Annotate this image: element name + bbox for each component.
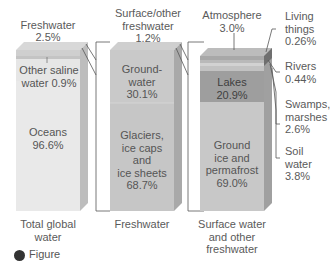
other-saline-label: Other saline water 0.9% (14, 64, 84, 89)
living-things-label: Living things 0.26% (285, 10, 316, 48)
groundice-line1: Ground (200, 139, 264, 152)
rivers-pct: 0.44% (285, 73, 316, 86)
glaciers-pct: 68.7% (110, 179, 174, 192)
rivers-name: Rivers (285, 60, 316, 73)
swamps-label: Swamps, marshes 2.6% (285, 98, 330, 136)
rivers-label: Rivers 0.44% (285, 60, 316, 85)
other-saline-line2: water 0.9% (14, 77, 84, 90)
surface-top-line2: freshwater (108, 20, 188, 33)
groundwater-label: Ground- water 30.1% (110, 63, 174, 101)
atmosphere-pct: 3.0% (200, 22, 264, 35)
atmosphere-name: Atmosphere (200, 9, 264, 22)
caption-text: Figure (29, 248, 60, 260)
surface-other-label: Surface/other freshwater 1.2% (108, 7, 188, 45)
soil-pct: 3.8% (285, 170, 312, 183)
surface-top-line1: Surface/other (108, 7, 188, 20)
groundwater-line2: water (110, 76, 174, 89)
groundice-line2: ice and (200, 152, 264, 165)
freshwater-pct: 2.5% (18, 31, 78, 44)
surface-bottom-label: Surface water and other freshwater (190, 218, 274, 256)
oceans-pct: 96.6% (16, 139, 80, 152)
glaciers-line3: and (110, 154, 174, 167)
groundwater-line1: Ground- (110, 63, 174, 76)
swamps-line1: Swamps, (285, 98, 330, 111)
lakes-pct: 20.9% (200, 89, 264, 102)
total-line2: water (10, 231, 86, 244)
soil-water-label: Soil water 3.8% (285, 145, 312, 183)
surface-bottom-line3: freshwater (190, 243, 274, 256)
total-global-water-label: Total global water (10, 218, 86, 243)
oceans-label: Oceans 96.6% (16, 126, 80, 151)
total-line1: Total global (10, 218, 86, 231)
living-pct: 0.26% (285, 35, 316, 48)
ground-ice-label: Ground ice and permafrost 69.0% (200, 139, 264, 189)
surface-bottom-line2: and other (190, 231, 274, 244)
groundice-pct: 69.0% (200, 177, 264, 190)
figure-caption: Figure (14, 248, 60, 261)
lakes-name: Lakes (200, 76, 264, 89)
living-line1: Living (285, 10, 316, 23)
groundwater-pct: 30.1% (110, 88, 174, 101)
surface-bottom-line1: Surface water (190, 218, 274, 231)
soil-line1: Soil (285, 145, 312, 158)
oceans-name: Oceans (16, 126, 80, 139)
swamps-line2: marshes (285, 111, 330, 124)
lakes-label: Lakes 20.9% (200, 76, 264, 101)
glaciers-line2: ice caps (110, 142, 174, 155)
groundice-line3: permafrost (200, 164, 264, 177)
swamps-pct: 2.6% (285, 123, 330, 136)
other-saline-line1: Other saline (14, 64, 84, 77)
surface-top-pct: 1.2% (108, 32, 188, 45)
freshwater-bottom-label: Freshwater (104, 218, 180, 231)
glaciers-label: Glaciers, ice caps and ice sheets 68.7% (110, 129, 174, 192)
freshwater-label: Freshwater (18, 19, 78, 32)
living-line2: things (285, 23, 316, 36)
caption-bullet-icon (14, 250, 25, 261)
atmosphere-label: Atmosphere 3.0% (200, 9, 264, 34)
glaciers-line4: ice sheets (110, 167, 174, 180)
glaciers-line1: Glaciers, (110, 129, 174, 142)
soil-line2: water (285, 158, 312, 171)
